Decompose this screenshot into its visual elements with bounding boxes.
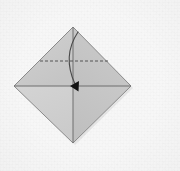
origami-figure-canvas <box>0 0 180 171</box>
origami-fold-diagram <box>0 0 180 171</box>
